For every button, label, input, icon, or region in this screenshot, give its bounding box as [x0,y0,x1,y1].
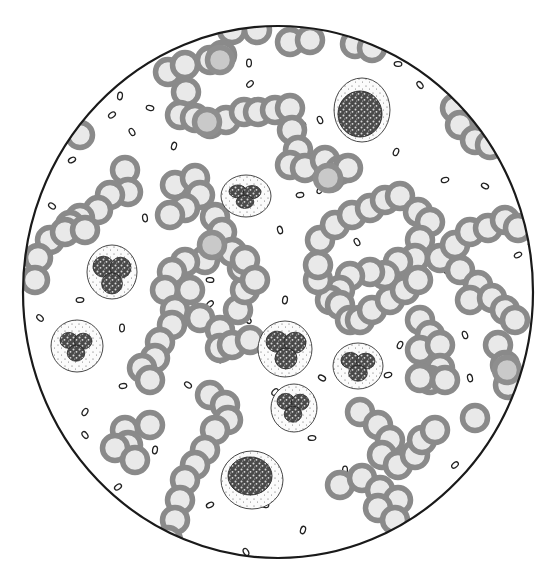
platelet [514,251,523,259]
red-blood-cell [463,406,488,431]
red-blood-cell [138,368,163,393]
platelet [481,182,490,190]
platelet [277,226,284,235]
red-blood-cell [423,418,448,443]
red-blood-cell [123,448,148,473]
nucleus [338,91,382,137]
platelet [81,408,89,417]
platelet [282,296,288,304]
platelet [142,214,148,222]
white-blood-cell-neutrophil [87,245,137,299]
red-blood-cell [73,218,98,243]
platelet [36,314,45,323]
white-blood-cell-neutrophil [221,175,271,217]
platelet [318,374,327,382]
platelet [48,202,57,210]
white-blood-cell-monocyte [334,78,390,142]
platelet [467,374,473,383]
red-blood-cell [173,53,198,78]
cells-layer [23,18,537,557]
white-blood-cell-neutrophil [258,321,312,377]
platelet [451,461,460,470]
red-blood-cell [245,18,270,43]
white-blood-cell-neutrophil [271,384,317,432]
red-blood-cell [406,268,431,293]
platelet [76,297,84,302]
platelet [461,331,468,340]
white-blood-cell-neutrophil [51,320,103,372]
platelet [396,341,404,350]
red-blood-cell [158,203,183,228]
platelet [152,446,158,454]
platelet [128,128,136,137]
nucleus-lobe [284,406,302,422]
red-blood-cell [138,413,163,438]
platelet [384,372,393,379]
red-blood-cell [23,268,48,293]
platelet [353,238,361,247]
red-blood-cell-dense [495,358,520,383]
platelet [206,501,215,509]
white-blood-cell-neutrophil [333,343,383,389]
red-blood-cell [306,253,331,278]
platelet [184,381,193,389]
red-blood-cell [478,100,503,125]
platelet [247,59,252,67]
platelet [441,176,450,183]
nucleus-lobe [349,365,368,381]
red-blood-cell-dense [195,110,220,135]
platelet [416,81,425,90]
red-blood-cell [243,268,268,293]
red-blood-cell [298,28,323,53]
platelet [392,148,399,157]
nucleus-lobe [67,345,85,361]
nucleus-lobe [236,195,254,208]
nucleus-lobe [275,348,297,369]
platelet [117,92,123,100]
red-blood-cell-dense [208,48,233,73]
platelet [296,192,304,198]
red-blood-cell [433,368,458,393]
red-blood-cell [408,366,433,391]
blood-smear-field [0,0,545,574]
platelet [114,483,123,491]
platelet [146,105,154,111]
platelet [108,111,117,119]
platelet [394,61,402,66]
platelet [300,526,307,535]
red-blood-cell [503,308,528,333]
platelet [119,383,127,389]
platelet [81,431,89,440]
nucleus-lobe [102,273,123,294]
platelet [246,80,255,89]
white-blood-cell-lymphocyte [221,451,283,509]
red-blood-cell-dense [200,233,225,258]
red-blood-cell-dense [316,166,341,191]
platelet [316,116,323,125]
platelet [171,142,178,151]
nucleus [228,457,272,495]
red-blood-cell [178,278,203,303]
platelet [206,277,214,282]
platelet [120,324,125,332]
platelet [68,156,77,164]
platelet [308,435,316,440]
